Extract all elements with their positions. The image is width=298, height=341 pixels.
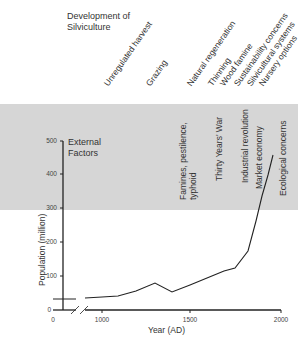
svg-text:400: 400 [46, 170, 57, 177]
svg-text:0: 0 [47, 306, 51, 313]
svg-text:200: 200 [46, 238, 57, 245]
svg-text:1000: 1000 [95, 316, 110, 323]
svg-text:500: 500 [46, 137, 57, 144]
svg-text:0: 0 [51, 316, 55, 323]
population-line [85, 155, 273, 298]
x-axis-label: Year (AD) [148, 325, 185, 335]
svg-text:2000: 2000 [274, 316, 289, 323]
svg-text:300: 300 [46, 204, 57, 211]
y-axis-label: Population (million) [37, 214, 47, 286]
svg-text:100: 100 [46, 272, 57, 279]
population-chart: 500 400 300 200 100 0 0 1000 1500 2000 [0, 0, 298, 341]
svg-text:1500: 1500 [183, 316, 198, 323]
